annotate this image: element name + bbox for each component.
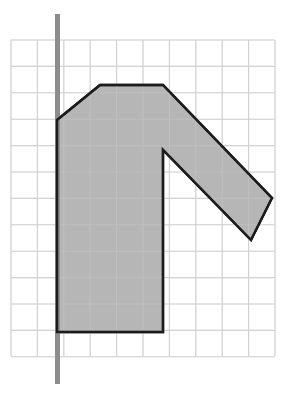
sweater-polygon bbox=[57, 85, 272, 332]
figure-canvas bbox=[0, 0, 286, 403]
grid-lines-over-shape bbox=[11, 40, 275, 357]
grid-figure-svg bbox=[0, 0, 286, 403]
